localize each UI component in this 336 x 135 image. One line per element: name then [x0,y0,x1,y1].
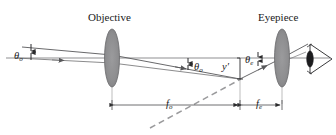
incoming-ray-upper [22,47,112,55]
eye-pupil-icon [307,51,313,67]
objective-lens [105,29,120,87]
optical-ray-diagram: Objective Eyepiece θo θo y′ θe fo fe [0,0,336,135]
refracted-ray-upper-arrowhead [175,67,186,69]
ray-diagram-canvas [0,0,336,135]
ray-image-to-eyepiece-arrowhead [258,66,267,71]
eyepiece-lens [275,29,290,87]
dashed-virtual-ray [150,79,241,128]
incoming-ray-lower-arrowhead [52,60,64,61]
image-height-bracket [237,58,243,79]
refracted-ray-lower [112,63,240,79]
